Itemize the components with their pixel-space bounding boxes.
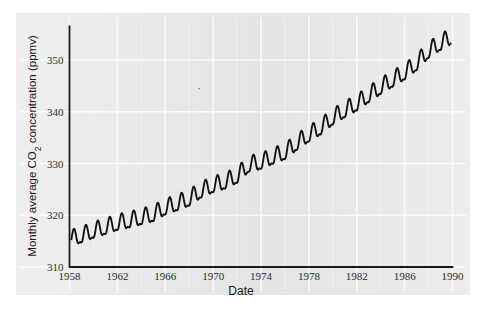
y-tick-label: 350 — [47, 54, 64, 66]
y-axis-title: Monthly average CO2 concentration (ppmv) — [26, 35, 43, 257]
x-tick-label: 1970 — [202, 270, 225, 282]
x-tick-labels: 195819621966197019741978198219861990 — [59, 270, 465, 282]
x-tick-label: 1966 — [154, 270, 177, 282]
y-tick-label: 310 — [47, 261, 64, 273]
y-tick-label: 340 — [47, 106, 64, 118]
y-tick-labels: 310320330340350 — [47, 54, 64, 273]
y-tick-label: 320 — [47, 209, 64, 221]
x-tick-label: 1990 — [442, 270, 465, 282]
chart-plot-area: 195819621966197019741978198219861990 310… — [0, 0, 486, 312]
y-axis-title-pre: Monthly average CO — [26, 151, 38, 257]
y-tick-label: 330 — [47, 158, 64, 170]
gridlines — [20, 17, 466, 291]
y-axis-title-post: concentration (ppmv) — [26, 35, 38, 146]
x-axis-title: Date — [228, 284, 254, 298]
x-tick-label: 1978 — [298, 270, 321, 282]
x-tick-label: 1974 — [250, 270, 273, 282]
x-tick-label: 1986 — [394, 270, 417, 282]
keeling-curve-chart: 195819621966197019741978198219861990 310… — [0, 0, 486, 312]
figure-root: 195819621966197019741978198219861990 310… — [0, 0, 486, 312]
x-tick-label: 1962 — [106, 270, 128, 282]
x-tick-label: 1982 — [346, 270, 368, 282]
scan-specks — [198, 88, 200, 90]
